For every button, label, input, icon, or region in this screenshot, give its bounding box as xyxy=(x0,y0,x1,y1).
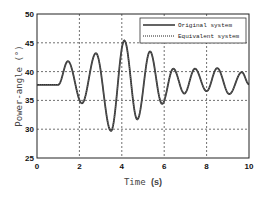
x-tick-label: 0 xyxy=(35,162,40,171)
x-tick-labels: 0246810 xyxy=(35,162,254,171)
power-angle-chart: 253035404550 0246810 Original system Equ… xyxy=(0,0,265,197)
data-curves xyxy=(37,41,249,131)
y-axis-label: Power-angle (°) xyxy=(14,45,24,126)
legend-equivalent-system: Equivalent system xyxy=(178,33,240,40)
x-tick-label: 8 xyxy=(204,162,209,171)
x-axis-unit: (s) xyxy=(151,177,162,187)
y-tick-labels: 253035404550 xyxy=(25,10,34,163)
y-tick-label: 45 xyxy=(25,39,34,48)
x-tick-label: 6 xyxy=(162,162,167,171)
y-tick-label: 30 xyxy=(25,125,34,134)
x-tick-label: 4 xyxy=(120,162,125,171)
legend: Original system Equivalent system xyxy=(140,18,246,43)
x-tick-label: 10 xyxy=(245,162,254,171)
x-axis-label-text: Time xyxy=(124,177,151,187)
legend-original-system: Original system xyxy=(178,22,232,29)
y-tick-label: 40 xyxy=(25,68,34,77)
y-tick-label: 50 xyxy=(25,10,34,19)
original-system-curve xyxy=(37,41,249,131)
x-tick-label: 2 xyxy=(77,162,82,171)
x-axis-label: Time (s) xyxy=(124,177,162,187)
y-tick-label: 25 xyxy=(25,154,34,163)
y-tick-label: 35 xyxy=(25,96,34,105)
